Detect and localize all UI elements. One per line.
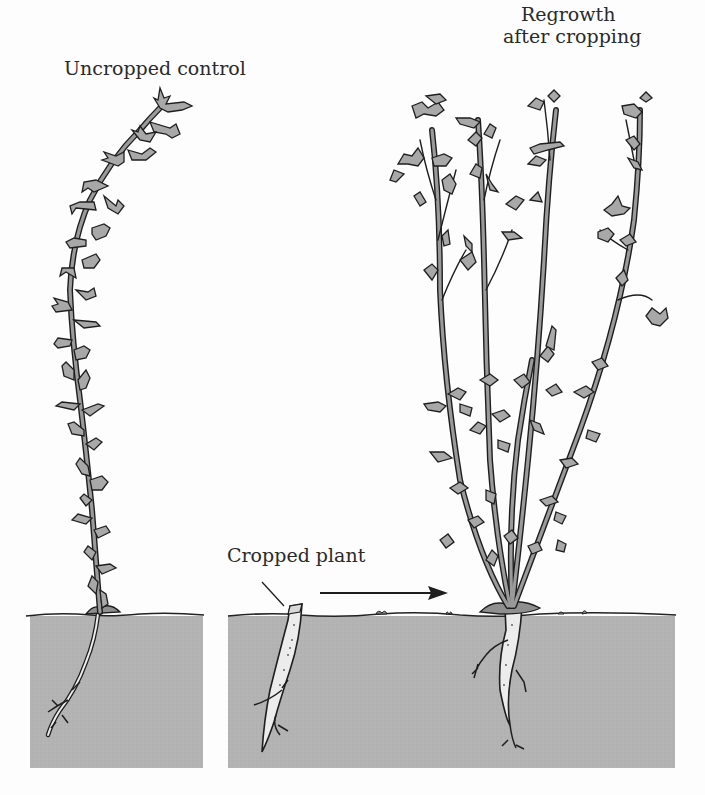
label-uncropped-control: Uncropped control xyxy=(64,57,246,79)
label-regrowth-line2: after cropping xyxy=(503,25,641,47)
label-pointer-line xyxy=(262,582,284,606)
label-regrowth: Regrowth after cropping xyxy=(503,3,641,47)
arrow-icon xyxy=(320,586,448,600)
label-cropped-plant: Cropped plant xyxy=(227,544,365,566)
soil-left xyxy=(26,613,204,768)
label-regrowth-line1: Regrowth xyxy=(503,3,641,25)
illustration xyxy=(0,0,705,795)
figure-stage: Uncropped control Regrowth after croppin… xyxy=(0,0,705,795)
